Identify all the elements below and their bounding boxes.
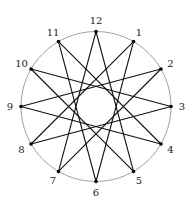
vertex-label: 3 <box>179 101 185 112</box>
vertex-label: 11 <box>47 27 60 38</box>
star-polygon-diagram: 121234567891011 <box>0 0 191 205</box>
vertex-label: 7 <box>50 175 56 186</box>
vertex-dot <box>29 142 33 146</box>
vertex-label: 12 <box>90 15 103 26</box>
vertex-dot <box>159 67 163 71</box>
vertex-label: 1 <box>136 27 142 38</box>
vertex-label: 8 <box>18 144 24 155</box>
vertex-dot <box>94 180 98 184</box>
vertex-dot <box>94 30 98 34</box>
vertex-dot <box>169 105 173 109</box>
star-edges <box>21 32 171 182</box>
vertex-points <box>19 30 173 184</box>
vertex-label: 4 <box>167 144 173 155</box>
vertex-dot <box>29 67 33 71</box>
vertex-labels: 121234567891011 <box>7 15 185 198</box>
vertex-dot <box>132 170 136 174</box>
vertex-dot <box>57 170 61 174</box>
vertex-dot <box>19 105 23 109</box>
vertex-dot <box>57 40 61 44</box>
vertex-dot <box>132 40 136 44</box>
vertex-label: 6 <box>93 187 99 198</box>
vertex-dot <box>159 142 163 146</box>
vertex-label: 10 <box>15 58 28 69</box>
vertex-label: 5 <box>136 175 142 186</box>
vertex-label: 9 <box>7 101 13 112</box>
outer-circle <box>21 32 171 182</box>
vertex-label: 2 <box>167 58 173 69</box>
